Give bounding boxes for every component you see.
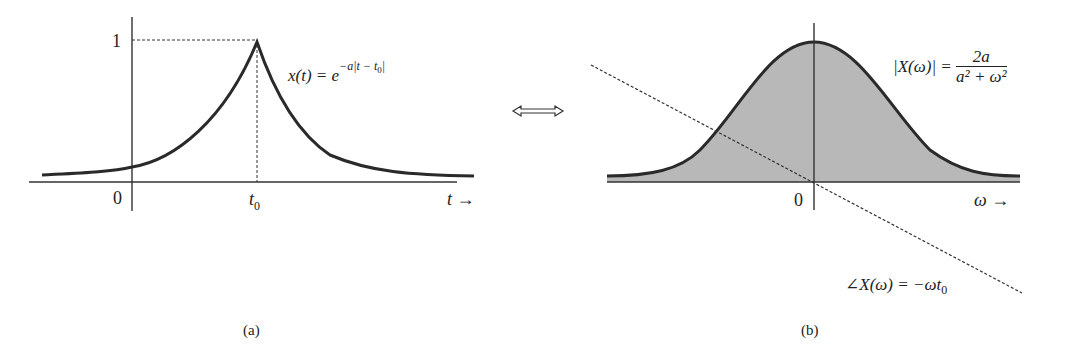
panel-a-x-axis-label: t → — [447, 190, 475, 208]
panel-b-x-axis-label: ω → — [974, 191, 1009, 209]
panel-a-origin-label: 0 — [113, 189, 122, 207]
panel-b-phase-equation: ∠X(ω) = −ωt0 — [845, 276, 947, 296]
magnitude-lhs: |X(ω)| = — [893, 57, 952, 76]
equation-exponent-close: | — [382, 59, 385, 73]
panel-a-plot — [29, 17, 474, 211]
equation-lhs: x(t) = e — [288, 66, 339, 85]
equation-exponent: −a|t − t — [339, 59, 377, 73]
panel-b-caption: (b) — [801, 322, 819, 339]
magnitude-denominator: a² + ω² — [956, 67, 1007, 85]
phase-subscript: 0 — [941, 283, 947, 297]
magnitude-fraction: 2a a² + ω² — [956, 48, 1007, 85]
panel-a-y-tick-1: 1 — [112, 32, 121, 50]
phase-label: ∠X(ω) = −ωt — [845, 275, 941, 294]
panel-a-equation: x(t) = e−a|t − t0| — [288, 64, 385, 84]
panel-a-curve — [42, 42, 474, 176]
t0-subscript: 0 — [254, 199, 260, 213]
magnitude-numerator: 2a — [956, 48, 1007, 67]
panel-a-t0-label: t0 — [249, 190, 260, 212]
panel-b-origin-label: 0 — [794, 191, 803, 209]
panel-a-caption: (a) — [243, 322, 260, 339]
panel-b-magnitude-equation: |X(ω)| = 2a a² + ω² — [893, 48, 1007, 85]
transform-pair-arrow — [513, 106, 563, 116]
